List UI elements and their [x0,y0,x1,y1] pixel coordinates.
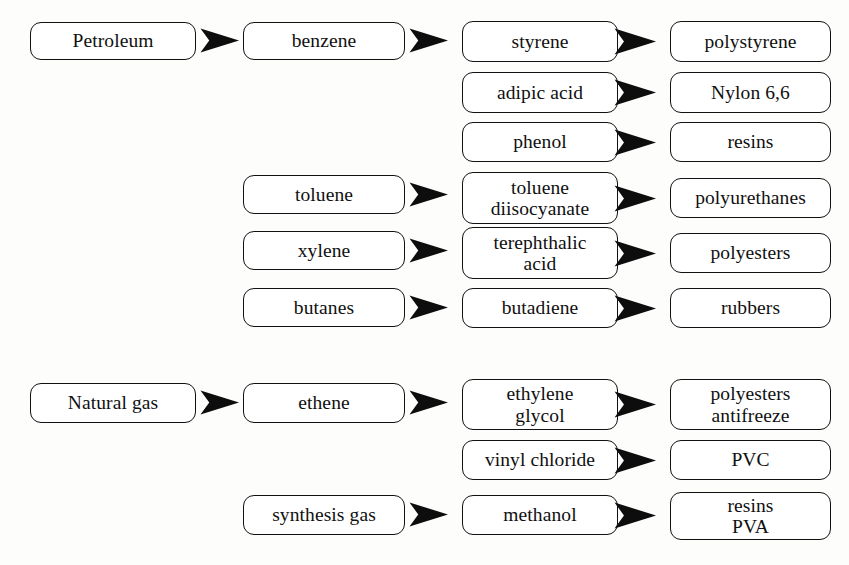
arrow-styrene-to-polystyrene [614,28,656,55]
node-label: phenol [468,131,612,152]
node-label-line: xylene [249,240,399,261]
node-label: Natural gas [36,392,190,413]
node-nylon-66: Nylon 6,6 [670,72,831,113]
node-label-line: polyesters [676,242,825,263]
node-label: benzene [249,30,399,51]
node-pvc: PVC [670,440,831,480]
node-label: butanes [249,297,399,318]
node-label-line: benzene [249,30,399,51]
node-label-line: phenol [468,131,612,152]
arrow-toluene-to-toluene-diisocyanate [409,182,448,207]
node-label: polyurethanes [676,187,825,208]
node-label: Nylon 6,6 [676,82,825,103]
arrow-phenol-to-resins [614,129,656,156]
arrow-synthesis-gas-to-methanol [409,502,448,527]
node-label-line: synthesis gas [249,504,399,525]
node-toluene-diisocyanate: toluenediisocyanate [462,172,618,224]
arrow-glycol-to-polyesters-antifreeze [614,391,656,418]
node-label: xylene [249,240,399,261]
node-label: Petroleum [36,30,190,51]
arrow-ethene-to-ethylene-glycol [409,390,448,415]
node-label: adipic acid [468,82,612,103]
node-vinyl-chloride: vinyl chloride [462,440,618,480]
node-benzene: benzene [243,22,405,60]
node-label-line: methanol [468,504,612,525]
node-ethylene-glycol: ethyleneglycol [462,379,618,430]
node-label-line: butanes [249,297,399,318]
node-butanes: butanes [243,288,405,327]
node-terephthalic-acid: terephthalicacid [462,227,618,279]
node-label-line: styrene [468,31,612,52]
node-label-line: PVC [676,449,825,470]
node-label: polystyrene [676,31,825,52]
node-label-line: PVA [676,516,825,537]
node-label-line: Natural gas [36,392,190,413]
node-polyesters-antifreeze: polyestersantifreeze [670,379,831,430]
node-label-line: Nylon 6,6 [676,82,825,103]
node-label-line: Petroleum [36,30,190,51]
node-resins-pva: resinsPVA [670,492,831,540]
arrow-terephthalic-to-polyesters [614,240,656,267]
arrow-vinyl-chloride-to-pvc [614,447,656,474]
node-label: synthesis gas [249,504,399,525]
node-label: polyestersantifreeze [676,383,825,425]
node-natural-gas: Natural gas [30,383,196,423]
node-label: vinyl chloride [468,449,612,470]
process-flow-diagram: Petroleumbenzenestyrenepolystyreneadipic… [0,0,849,565]
arrow-petroleum-to-benzene [200,28,239,53]
node-label-line: adipic acid [468,82,612,103]
node-xylene: xylene [243,231,405,270]
node-label: styrene [468,31,612,52]
node-label-line: vinyl chloride [468,449,612,470]
node-label: resins [676,131,825,152]
node-label-line: polystyrene [676,31,825,52]
node-label-line: ethylene [468,383,612,404]
node-phenol: phenol [462,122,618,162]
node-label: methanol [468,504,612,525]
node-label: resinsPVA [676,495,825,537]
node-resins: resins [670,122,831,162]
node-label: polyesters [676,242,825,263]
node-label-line: antifreeze [676,405,825,426]
arrow-butadiene-to-rubbers [614,295,656,322]
node-label-line: toluene [249,184,399,205]
node-rubbers: rubbers [670,288,831,328]
node-polystyrene: polystyrene [670,21,831,62]
node-synthesis-gas: synthesis gas [243,495,405,535]
node-adipic-acid: adipic acid [462,72,618,113]
node-polyurethanes: polyurethanes [670,178,831,218]
node-petroleum: Petroleum [30,22,196,60]
node-label-line: acid [468,253,612,274]
arrow-methanol-to-resins-pva [614,502,656,529]
node-label-line: toluene [468,177,612,198]
arrow-adipic-acid-to-nylon-66 [614,79,656,106]
node-label: toluene [249,184,399,205]
arrow-butanes-to-butadiene [409,295,448,320]
node-styrene: styrene [462,21,618,62]
node-methanol: methanol [462,495,618,535]
node-label-line: polyesters [676,383,825,404]
node-ethene: ethene [243,383,405,423]
node-label: rubbers [676,297,825,318]
node-label: toluenediisocyanate [468,177,612,219]
node-label-line: ethene [249,392,399,413]
arrow-tdi-to-polyurethanes [614,185,656,212]
arrow-xylene-to-terephthalic-acid [409,238,448,263]
node-label-line: resins [676,131,825,152]
node-label: butadiene [468,297,612,318]
arrow-benzene-to-styrene [409,28,448,53]
node-label-line: rubbers [676,297,825,318]
node-label-line: diisocyanate [468,198,612,219]
node-label: terephthalicacid [468,232,612,274]
node-label: ethyleneglycol [468,383,612,425]
node-label: ethene [249,392,399,413]
node-label-line: glycol [468,405,612,426]
node-label-line: polyurethanes [676,187,825,208]
node-label-line: resins [676,495,825,516]
node-label: PVC [676,449,825,470]
arrow-natural-gas-to-ethene [200,390,239,415]
node-polyesters-top: polyesters [670,233,831,273]
node-label-line: terephthalic [468,232,612,253]
node-toluene: toluene [243,175,405,214]
node-butadiene: butadiene [462,288,618,328]
